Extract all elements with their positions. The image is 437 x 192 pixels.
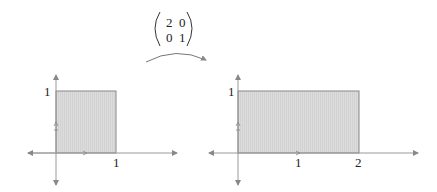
transform-arrow-icon (146, 53, 206, 62)
matrix-entry-11: 2 (166, 15, 173, 30)
left-paren (155, 12, 160, 46)
right-paren (187, 12, 192, 46)
plot-after: 1 1 2 (209, 75, 418, 185)
diagram-canvas: 2 0 0 1 1 1 1 1 2 (0, 0, 437, 192)
stretched-rectangle (238, 91, 359, 153)
x-label-1: 1 (295, 155, 302, 170)
unit-square (56, 91, 116, 153)
matrix-entry-21: 0 (166, 30, 173, 45)
matrix-entry-22: 1 (179, 30, 186, 45)
y-label-1: 1 (228, 84, 235, 99)
plot-before: 1 1 (28, 75, 177, 185)
y-label-1: 1 (44, 84, 51, 99)
transformation-matrix: 2 0 0 1 (155, 12, 192, 46)
matrix-entry-12: 0 (179, 15, 186, 30)
x-label-2: 2 (355, 155, 362, 170)
x-label-1: 1 (113, 155, 120, 170)
